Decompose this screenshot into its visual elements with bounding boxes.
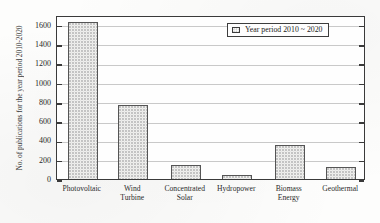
axis-tick (57, 26, 62, 28)
axis-tick (57, 103, 62, 105)
legend-entry-label: Year period 2010 ~ 2020 (245, 26, 323, 34)
x-axis-tick-label: Geothermal (311, 184, 371, 193)
axis-tick (57, 122, 62, 124)
axis-tick (57, 142, 62, 144)
y-axis-tick-label: 1200 (0, 60, 51, 68)
bar-chart: No. of publications for the year period … (0, 0, 380, 223)
y-axis-tick-label: 600 (0, 118, 51, 126)
gridline (57, 84, 364, 85)
y-axis-tick-label: 200 (0, 157, 51, 165)
axis-tick (359, 180, 364, 182)
plot-area (56, 16, 365, 180)
bar (222, 175, 252, 179)
y-axis-tick-label: 1400 (0, 41, 51, 49)
y-axis-tick-label: 800 (0, 99, 51, 107)
axis-tick (359, 26, 364, 28)
axis-tick (57, 161, 62, 163)
bar (326, 167, 356, 179)
gridline (57, 103, 364, 104)
gridline (57, 123, 364, 124)
axis-tick (359, 64, 364, 66)
axis-tick (57, 64, 62, 66)
bar (118, 105, 148, 179)
y-axis-tick-label: 1600 (0, 22, 51, 30)
gridline (57, 45, 364, 46)
axis-tick (57, 180, 62, 182)
axis-tick (57, 45, 62, 47)
x-axis-tick-label: Hydropower (207, 184, 267, 193)
y-axis-tick-label: 1000 (0, 80, 51, 88)
axis-tick (359, 84, 364, 86)
x-axis-tick-label: Wind Turbine (103, 184, 163, 203)
dotted-rectangle-swatch-icon (232, 27, 240, 33)
gridline (57, 142, 364, 143)
gridline (57, 161, 364, 162)
bar (275, 145, 305, 179)
axis-tick (359, 142, 364, 144)
axis-tick (359, 122, 364, 124)
y-axis-tick-label: 0 (0, 176, 51, 184)
axis-tick (359, 161, 364, 163)
axis-tick (57, 84, 62, 86)
y-axis-tick-label: 400 (0, 137, 51, 145)
axis-tick (359, 103, 364, 105)
gridline (57, 65, 364, 66)
bar (171, 165, 201, 179)
axis-tick (359, 45, 364, 47)
chart-legend: Year period 2010 ~ 2020 (227, 23, 329, 37)
bar (68, 22, 98, 179)
